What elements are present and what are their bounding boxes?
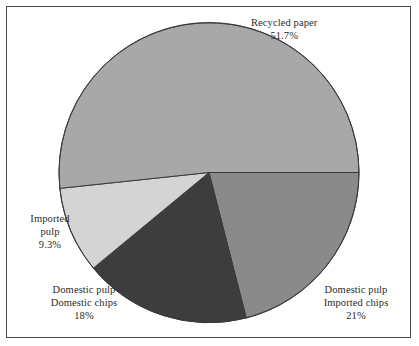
pie-label-recycled-paper: Recycled paper 51.7% [251,16,317,42]
pie-label-recycled-paper-name: Recycled paper [251,16,317,29]
pie-label-domestic-pulp-domestic-chips-name2: Domestic chips [22,296,146,309]
figure: Recycled paper 51.7% Imported pulp 9.3% … [0,0,419,346]
pie-label-domestic-pulp-imported-chips: Domestic pulp Imported chips 21% [297,283,415,322]
pie-label-domestic-pulp-domestic-chips-value: 18% [22,309,146,322]
pie-label-domestic-pulp-domestic-chips: Domestic pulp Domestic chips 18% [22,283,146,322]
pie-slice-recycled-paper[interactable] [59,23,359,189]
pie-label-domestic-pulp-domestic-chips-name1: Domestic pulp [22,283,146,296]
pie-label-imported-pulp-value: 9.3% [8,238,92,251]
pie-chart: Recycled paper 51.7% Imported pulp 9.3% … [0,0,419,346]
pie-label-imported-pulp-name1: Imported [8,212,92,225]
pie-label-domestic-pulp-imported-chips-name1: Domestic pulp [297,283,415,296]
pie-label-imported-pulp-name2: pulp [8,225,92,238]
pie-label-domestic-pulp-imported-chips-name2: Imported chips [297,296,415,309]
pie-label-imported-pulp: Imported pulp 9.3% [8,212,92,251]
pie-label-recycled-paper-value: 51.7% [251,29,317,42]
pie-label-domestic-pulp-imported-chips-value: 21% [297,309,415,322]
